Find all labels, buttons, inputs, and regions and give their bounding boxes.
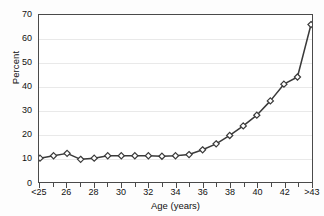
y-axis-tick-label: 50 [22,58,32,67]
y-axis-tick-label: 20 [22,130,32,139]
data-point-marker [39,155,43,161]
x-axis-tick-mark [135,183,136,187]
data-point-marker [91,155,97,161]
x-axis-tick-label: >43 [304,187,319,197]
data-point-marker [159,153,165,159]
data-point-marker [78,156,84,162]
x-axis-tick-mark [271,183,272,187]
y-axis-tick-label: 10 [22,154,32,163]
x-axis-tick-label: 30 [116,187,126,197]
x-axis-tick-mark [80,183,81,187]
x-axis-tick-label: 38 [225,187,235,197]
x-axis-title: Age (years) [38,200,313,211]
x-axis-tick-label: 36 [198,187,208,197]
plot-area [38,14,313,183]
x-axis-tick-label: 34 [170,187,180,197]
x-axis-tick-mark [53,183,54,187]
data-point-marker [50,153,56,159]
data-point-marker [118,153,124,159]
y-axis-tick-label: 30 [22,106,32,115]
x-axis-tick-label: 26 [61,187,71,197]
x-axis-tick-mark [162,183,163,187]
y-axis-tick-label: 60 [22,34,32,43]
x-axis-tick-mark [244,183,245,187]
x-axis-tick-label: 40 [252,187,262,197]
data-point-marker [105,153,111,159]
data-point-marker [308,21,312,27]
x-axis-tick-mark [298,183,299,187]
series-line-percent [39,15,312,182]
x-axis-tick-labels: <25262830323436384042>43 [38,187,313,201]
data-point-marker [186,152,192,158]
y-axis-tick-label: 70 [22,10,32,19]
x-axis-tick-label: 28 [89,187,99,197]
x-axis-tick-mark [216,183,217,187]
y-axis-tick-label: 40 [22,82,32,91]
x-axis-tick-mark [107,183,108,187]
x-axis-tick-label: <25 [31,187,46,197]
data-point-marker [200,147,206,153]
chart-figure: Percent 010203040506070 <252628303234363… [0,0,324,216]
x-axis-tick-label: 32 [143,187,153,197]
x-axis-tick-mark [189,183,190,187]
data-point-marker [132,153,138,159]
data-point-marker [172,153,178,159]
x-axis-tick-label: 42 [280,187,290,197]
data-point-marker [294,74,300,80]
y-axis-tick-labels: 010203040506070 [0,0,36,216]
data-point-marker [64,150,70,156]
data-point-marker [145,153,151,159]
